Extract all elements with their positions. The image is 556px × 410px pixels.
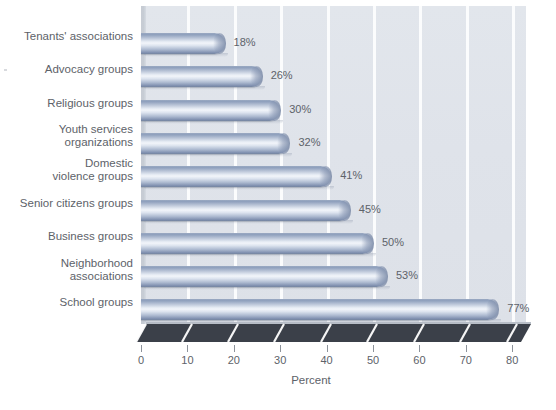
- bar[interactable]: [141, 166, 331, 187]
- bar-row: 77%: [141, 293, 526, 326]
- category-label: Domestic violence groups: [0, 157, 133, 183]
- x-tick-mark: [512, 345, 513, 352]
- x-tick-label: 20: [222, 354, 246, 366]
- bars-group: 18%26%30%32%41%45%50%53%77%: [141, 6, 526, 324]
- bar[interactable]: [141, 233, 373, 254]
- bar[interactable]: [141, 100, 280, 121]
- bar[interactable]: [141, 133, 289, 154]
- bar-value-label: 30%: [289, 103, 311, 115]
- bar-value-label: 26%: [271, 69, 293, 81]
- bar-value-label: 41%: [340, 169, 362, 181]
- x-tick-label: 80: [500, 354, 524, 366]
- category-label: Advocacy groups: [0, 63, 133, 76]
- x-tick-label: 50: [361, 354, 385, 366]
- bar-value-label: 53%: [396, 269, 418, 281]
- x-axis-title: Percent: [0, 374, 556, 386]
- bar[interactable]: [141, 66, 262, 87]
- x-tick-label: 0: [129, 354, 153, 366]
- x-tick-label: 60: [407, 354, 431, 366]
- bar-end-cap: [486, 299, 499, 320]
- bar-end-cap: [338, 200, 351, 221]
- bar-row: 45%: [141, 194, 526, 227]
- bar-end-cap: [277, 133, 290, 154]
- x-tick-mark: [327, 345, 328, 352]
- bar-value-label: 32%: [298, 136, 320, 148]
- bar[interactable]: [141, 33, 225, 54]
- category-label: Business groups: [0, 230, 133, 243]
- bar-value-label: 77%: [507, 302, 529, 314]
- x-tick-mark: [280, 345, 281, 352]
- bar-end-cap: [319, 166, 332, 187]
- x-tick-mark: [419, 345, 420, 352]
- bar[interactable]: [141, 200, 350, 221]
- x-tick-label: 30: [268, 354, 292, 366]
- bar-end-cap: [213, 33, 226, 54]
- category-label: Neighborhood associations: [0, 257, 133, 283]
- category-label: School groups: [0, 296, 133, 309]
- bar-chart: 18%26%30%32%41%45%50%53%77% Tenants' ass…: [0, 0, 556, 410]
- bar-row: 30%: [141, 94, 526, 127]
- x-tick-label: 70: [454, 354, 478, 366]
- bar-value-label: 50%: [382, 236, 404, 248]
- x-tick-mark: [187, 345, 188, 352]
- category-label: Youth services organizations: [0, 123, 133, 149]
- bar-row: 53%: [141, 260, 526, 293]
- bar-row: 50%: [141, 227, 526, 260]
- bar-value-label: 18%: [234, 36, 256, 48]
- x-tick-mark: [234, 345, 235, 352]
- bar-end-cap: [361, 233, 374, 254]
- category-label: Senior citizens groups: [0, 197, 133, 210]
- bar-row: 26%: [141, 60, 526, 93]
- x-tick-mark: [466, 345, 467, 352]
- bar-value-label: 45%: [359, 203, 381, 215]
- bar-end-cap: [250, 66, 263, 87]
- bar-row: 41%: [141, 160, 526, 193]
- x-tick-mark: [141, 345, 142, 352]
- bar[interactable]: [141, 266, 387, 287]
- bar-end-cap: [268, 100, 281, 121]
- page-artifact-mark: [4, 69, 7, 71]
- category-label: Religious groups: [0, 97, 133, 110]
- category-label: Tenants' associations: [0, 30, 133, 43]
- x-tick-label: 10: [175, 354, 199, 366]
- x-tick-mark: [373, 345, 374, 352]
- x-axis-title-text: Percent: [291, 374, 331, 386]
- bar[interactable]: [141, 299, 498, 320]
- x-tick-label: 40: [315, 354, 339, 366]
- bar-row: 18%: [141, 27, 526, 60]
- bar-end-cap: [375, 266, 388, 287]
- bar-row: 32%: [141, 127, 526, 160]
